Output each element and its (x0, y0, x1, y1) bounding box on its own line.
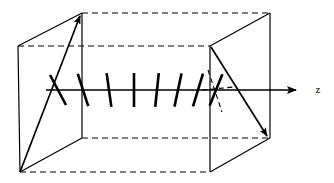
twisted-director-diagram: z (0, 0, 334, 183)
right-plane-top-edge (210, 13, 270, 46)
right-plane-bottom-edge (210, 138, 270, 172)
left-plane-top-edge (18, 13, 82, 46)
hidden-edges-group (18, 13, 270, 172)
left-plane-left-edge (18, 46, 20, 172)
left-plane-bottom-edge (20, 138, 82, 172)
polarization-vectors-group (20, 16, 267, 172)
z-axis-label: z (316, 83, 321, 95)
input-polarization-arrow (20, 16, 80, 172)
z-axis-group: z (46, 83, 321, 95)
figure-container: z (0, 0, 334, 183)
output-polarization-arrow (211, 47, 267, 136)
director-bar-5 (155, 73, 159, 107)
